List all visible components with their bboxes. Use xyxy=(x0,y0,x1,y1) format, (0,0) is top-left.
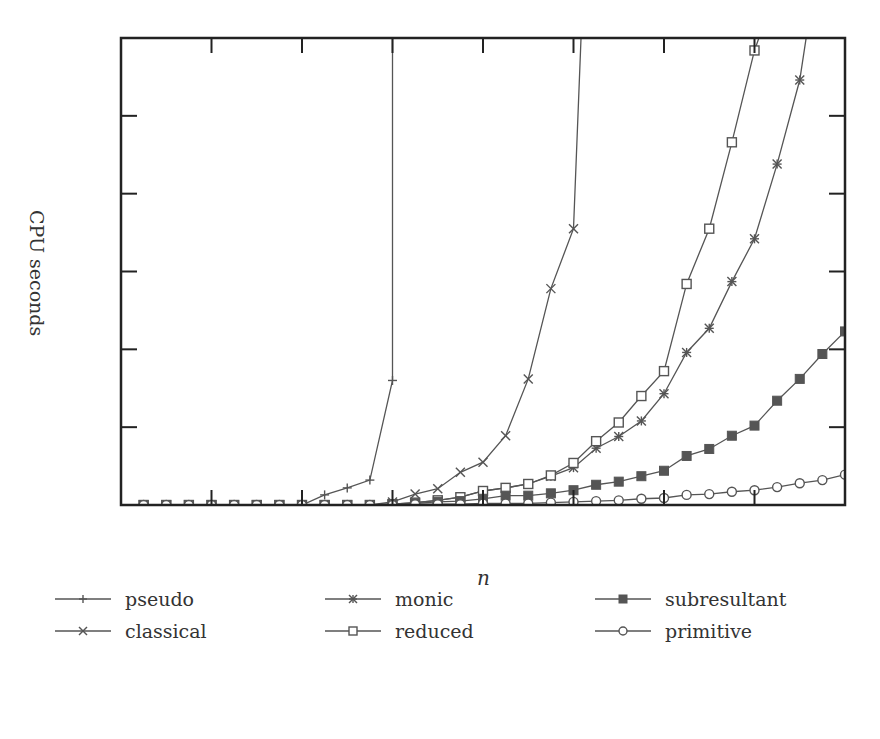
legend-label: primitive xyxy=(665,620,752,642)
y-axis-label: CPU seconds xyxy=(26,210,48,336)
chart-canvas xyxy=(0,0,880,560)
series-reduced xyxy=(139,28,762,510)
legend-item-classical: classical xyxy=(55,618,207,644)
legend-item-reduced: reduced xyxy=(325,618,474,644)
legend-x-marker-icon xyxy=(55,621,111,641)
legend-label: monic xyxy=(395,588,453,610)
legend-label: reduced xyxy=(395,620,474,642)
legend-filled-square-marker-icon xyxy=(595,589,651,609)
legend-item-pseudo: pseudo xyxy=(55,586,194,612)
x-axis-label: n xyxy=(477,566,490,590)
legend-open-circle-marker-icon xyxy=(595,621,651,641)
legend-asterisk-marker-icon xyxy=(325,589,381,609)
series-pseudo xyxy=(139,28,397,510)
legend-label: subresultant xyxy=(665,588,786,610)
legend-item-primitive: primitive xyxy=(595,618,752,644)
legend-plus-marker-icon xyxy=(55,589,111,609)
legend-item-monic: monic xyxy=(325,586,453,612)
legend-open-square-marker-icon xyxy=(325,621,381,641)
legend-label: pseudo xyxy=(125,588,194,610)
series-layer xyxy=(139,28,849,510)
series-subresultant xyxy=(139,327,849,510)
legend-item-subresultant: subresultant xyxy=(595,586,786,612)
legend-label: classical xyxy=(125,620,207,642)
series-monic xyxy=(139,28,808,510)
series-classical xyxy=(139,28,581,510)
